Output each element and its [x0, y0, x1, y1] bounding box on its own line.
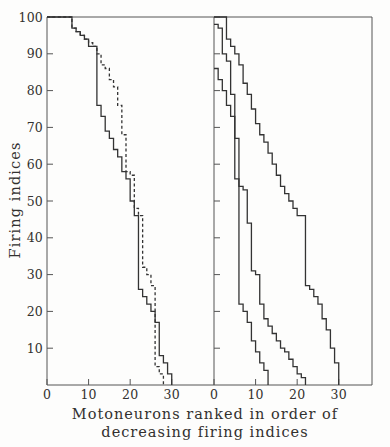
right-panel-x-ticks	[214, 379, 339, 385]
left-panel-series-group	[47, 17, 172, 385]
caption-line-2: decreasing firing indices	[101, 424, 308, 440]
right-panel-series-group	[214, 17, 339, 385]
series-line	[214, 69, 268, 385]
tick-label: 40	[27, 230, 43, 245]
tick-label: 20	[122, 387, 138, 402]
series-line	[214, 24, 305, 385]
right-panel-x-tick-labels: 0102030	[210, 387, 347, 402]
tick-label: 30	[27, 267, 43, 282]
right-panel-y-ticks	[214, 17, 220, 348]
series-line	[214, 17, 339, 385]
series-line	[47, 17, 163, 385]
tick-label: 0	[210, 387, 218, 402]
left-panel-x-ticks	[47, 379, 172, 385]
tick-label: 20	[289, 387, 305, 402]
left-panel-y-ticks	[47, 17, 53, 348]
tick-label: 70	[27, 120, 43, 135]
plot-frame	[47, 17, 372, 385]
tick-label: 30	[331, 387, 347, 402]
series-line	[47, 17, 172, 385]
tick-label: 90	[27, 46, 43, 61]
caption-line-1: Motoneurons ranked in order of	[72, 406, 339, 422]
tick-label: 20	[27, 304, 43, 319]
tick-label: 10	[80, 387, 96, 402]
figure-root: 102030405060708090100 0102030 0102030 Fi…	[0, 0, 390, 447]
tick-label: 100	[19, 10, 43, 25]
left-panel-x-tick-labels: 0102030	[43, 387, 180, 402]
tick-label: 80	[27, 83, 43, 98]
tick-label: 60	[27, 157, 43, 172]
tick-label: 30	[164, 387, 180, 402]
tick-label: 0	[43, 387, 51, 402]
tick-label: 50	[27, 194, 43, 209]
y-axis-title: Firing indices	[7, 142, 23, 259]
chart-canvas: 102030405060708090100 0102030 0102030 Fi…	[0, 0, 390, 447]
tick-label: 10	[27, 341, 43, 356]
tick-label: 10	[247, 387, 263, 402]
